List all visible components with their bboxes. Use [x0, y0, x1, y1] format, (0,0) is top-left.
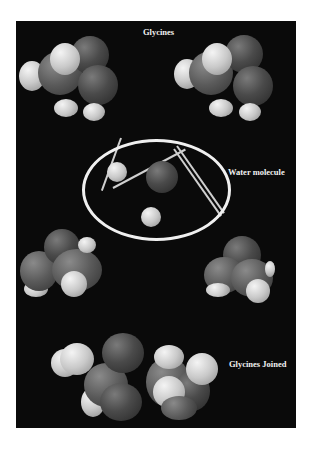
label-water-molecule: Water molecule: [228, 167, 285, 177]
label-glycines-joined: Glycines Joined: [229, 359, 286, 369]
label-glycines: Glycines: [143, 27, 174, 37]
hydrogen-atom: [107, 162, 127, 182]
oxygen-atom: [146, 161, 178, 193]
hydrogen-atom: [141, 207, 161, 227]
molecule-figure: Glycines Water molecule: [16, 21, 296, 428]
